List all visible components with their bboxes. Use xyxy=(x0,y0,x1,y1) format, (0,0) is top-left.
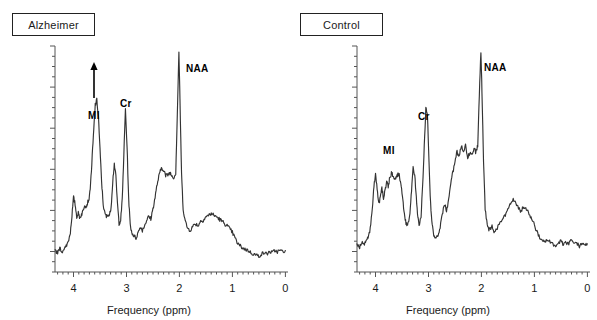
x-tick-label: 0 xyxy=(282,282,288,294)
x-axis-title: Frequency (ppm) xyxy=(299,304,597,316)
panel-alzheimer: Alzheimer 43210 MI Cr NAA Frequency (ppm… xyxy=(0,0,298,320)
x-tick-label: 4 xyxy=(372,282,378,294)
x-tick-label: 1 xyxy=(531,282,537,294)
spectrum-trace xyxy=(55,52,285,257)
x-axis-title: Frequency (ppm) xyxy=(0,304,298,316)
peak-label-cr: Cr xyxy=(120,98,132,109)
peak-label-naa: NAA xyxy=(186,63,209,74)
x-tick-label: 3 xyxy=(123,282,129,294)
mrs-spectra-figure: Alzheimer 43210 MI Cr NAA Frequency (ppm… xyxy=(0,0,597,320)
peak-label-naa: NAA xyxy=(484,62,507,73)
panel-control: Control 43210 MI Cr NAA Frequency (ppm) xyxy=(299,0,597,320)
x-tick-label: 3 xyxy=(425,282,431,294)
x-tick-label: 1 xyxy=(229,282,235,294)
plot-control: 43210 xyxy=(299,0,597,320)
peak-label-mi: MI xyxy=(88,110,100,121)
peak-label-cr: Cr xyxy=(418,111,430,122)
x-tick-label: 4 xyxy=(70,282,76,294)
plot-alzheimer: 43210 xyxy=(0,0,298,320)
peak-label-mi: MI xyxy=(383,145,395,156)
x-tick-label: 2 xyxy=(478,282,484,294)
x-tick-label: 2 xyxy=(176,282,182,294)
up-arrow-head xyxy=(90,62,97,70)
x-tick-label: 0 xyxy=(584,282,590,294)
